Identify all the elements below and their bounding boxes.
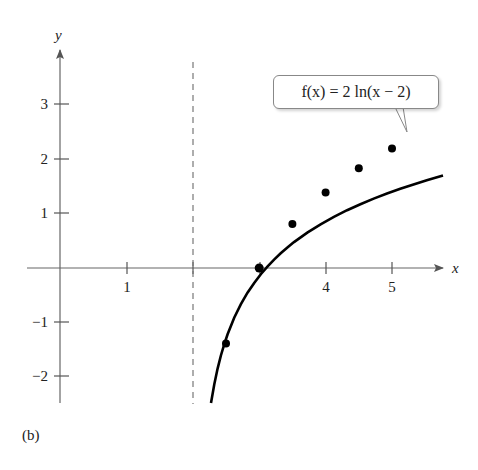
x-tick-label-5: 5	[388, 279, 396, 295]
y-tick-label-3: 3	[41, 96, 49, 112]
function-callout: f(x) = 2 ln(x − 2)	[273, 75, 439, 109]
data-points	[222, 145, 396, 348]
data-point	[255, 264, 264, 273]
y-tick-label-neg2: −2	[32, 368, 48, 384]
data-point	[288, 220, 296, 228]
y-axis-label: y	[53, 27, 62, 43]
callout-text: f(x) = 2 ln(x − 2)	[301, 83, 410, 101]
x-tick-label-4: 4	[322, 279, 330, 295]
data-point	[355, 164, 363, 172]
graph-canvas: 1 4 5 3 2 1 −1 −2 x y	[0, 0, 478, 470]
y-tick-label-neg1: −1	[32, 314, 48, 330]
figure-label: (b)	[22, 427, 40, 444]
y-tick-label-2: 2	[41, 151, 49, 167]
x-tick-label-1: 1	[123, 279, 131, 295]
data-point	[388, 145, 396, 153]
data-point	[322, 189, 330, 197]
x-axis-label: x	[451, 260, 459, 276]
callout-pointer	[395, 107, 407, 132]
data-point	[222, 339, 230, 347]
y-ticks	[54, 104, 69, 376]
y-tick-label-1: 1	[41, 205, 49, 221]
